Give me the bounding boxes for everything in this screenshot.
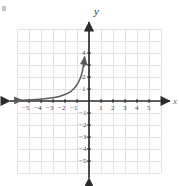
y-axis-label: y bbox=[94, 6, 99, 17]
x-tick-label--3: −3 bbox=[46, 105, 53, 112]
x-tick-label--5: −5 bbox=[22, 105, 29, 112]
x-tick-label--4: −4 bbox=[34, 105, 41, 112]
x-tick-label-3: 3 bbox=[123, 105, 127, 112]
y-tick-label--3: −3 bbox=[79, 134, 86, 141]
y-tick-label-1: 1 bbox=[82, 86, 86, 93]
graph-figure: y x −5 −4 −3 −2 −1 1 2 3 4 5 4 3 2 1 −1 … bbox=[0, 0, 179, 186]
y-tick-label--1: −1 bbox=[79, 110, 86, 117]
y-tick-label-4: 4 bbox=[82, 50, 86, 57]
x-tick-label-5: 5 bbox=[147, 105, 151, 112]
y-tick-label--2: −2 bbox=[79, 122, 86, 129]
x-tick-label--1: −1 bbox=[70, 105, 77, 112]
y-tick-label--5: −5 bbox=[79, 158, 86, 165]
x-tick-label--2: −2 bbox=[58, 105, 65, 112]
y-tick-label-2: 2 bbox=[82, 74, 86, 81]
y-tick-label-3: 3 bbox=[82, 62, 86, 69]
x-tick-label-4: 4 bbox=[135, 105, 139, 112]
x-axis-label: x bbox=[173, 97, 177, 106]
coordinate-plane bbox=[0, 0, 179, 186]
y-tick-label--4: −4 bbox=[79, 146, 86, 153]
x-tick-label-2: 2 bbox=[111, 105, 115, 112]
x-tick-label-1: 1 bbox=[99, 105, 103, 112]
